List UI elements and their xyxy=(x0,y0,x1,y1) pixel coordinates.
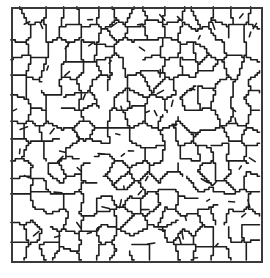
crack-network-image xyxy=(0,0,270,278)
